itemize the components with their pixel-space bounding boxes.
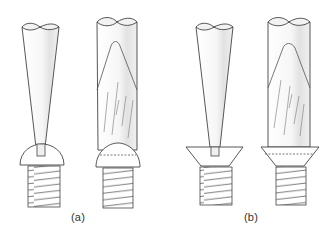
tapered-screwdriver-a: [22, 23, 59, 156]
diagram-drawing: [0, 0, 332, 236]
countersunk-screw-b-right: [261, 147, 319, 205]
panel-a-label: (a): [71, 211, 85, 223]
panel-b-label: (b): [244, 211, 258, 223]
tapered-screwdriver-b: [196, 23, 233, 156]
screwdriver-screw-diagram: (a) (b): [0, 0, 332, 236]
flared-screwdriver-a: [97, 18, 137, 151]
panel-a: [20, 18, 140, 209]
countersunk-screw-b-left: [186, 147, 243, 205]
panel-b: [186, 18, 319, 206]
round-head-screw-a-right: [96, 143, 140, 208]
flared-screwdriver-b: [268, 18, 310, 148]
round-head-screw-a-left: [20, 144, 64, 207]
